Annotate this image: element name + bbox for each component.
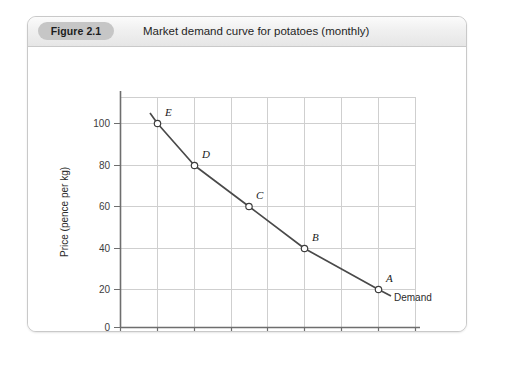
data-point-label-a: A [385, 272, 393, 284]
data-point-e[interactable] [154, 120, 160, 126]
y-tick-label-80: 80 [99, 160, 111, 171]
figure-body: 0 20 40 60 80 100 0 100 200 300 400 500 … [28, 47, 466, 332]
figure-title: Market demand curve for potatoes (monthl… [143, 23, 369, 40]
data-point-label-c: C [256, 189, 264, 201]
figure-badge: Figure 2.1 [38, 22, 114, 40]
data-point-label-d: D [201, 148, 210, 160]
y-tick-label-40: 40 [99, 243, 111, 254]
y-tick-label-20: 20 [99, 284, 111, 295]
y-tick-label-100: 100 [93, 118, 110, 129]
figure-header: Figure 2.1 Market demand curve for potat… [28, 17, 466, 47]
data-point-d[interactable] [191, 162, 197, 168]
data-point-label-e: E [164, 106, 172, 118]
data-point-b[interactable] [301, 245, 307, 251]
y-axis-ticks [114, 124, 120, 328]
y-tick-label-60: 60 [99, 201, 111, 212]
y-axis-title: Price (pence per kg) [59, 167, 70, 257]
data-point-label-b: B [312, 231, 319, 243]
demand-series-label: Demand [394, 292, 432, 303]
y-tick-label-0: 0 [104, 322, 110, 332]
figure-card: Figure 2.1 Market demand curve for potat… [27, 16, 467, 332]
data-point-c[interactable] [246, 203, 252, 209]
demand-curve-chart: 0 20 40 60 80 100 0 100 200 300 400 500 … [28, 47, 466, 332]
data-point-a[interactable] [375, 286, 381, 292]
